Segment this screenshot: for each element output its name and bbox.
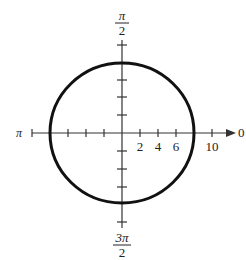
angle-label-3pi-over-2-den: 2 [119, 245, 126, 260]
angle-label-3pi-over-2-num: 3π [114, 230, 129, 245]
angle-label-pi-over-2-num: π [119, 8, 126, 23]
arrow-head-icon [226, 129, 236, 137]
angle-label-pi: π [16, 126, 23, 140]
radial-tick-label: 6 [173, 139, 180, 154]
angle-label-pi-over-2-den: 2 [119, 23, 126, 38]
radial-tick-label: 10 [206, 139, 219, 154]
polar-plot: π 0 π 2 3π 2 2 4 6 10 [0, 0, 246, 260]
radial-tick-label: 4 [155, 139, 162, 154]
radial-tick-label: 2 [137, 139, 144, 154]
angle-label-zero: 0 [238, 125, 245, 140]
